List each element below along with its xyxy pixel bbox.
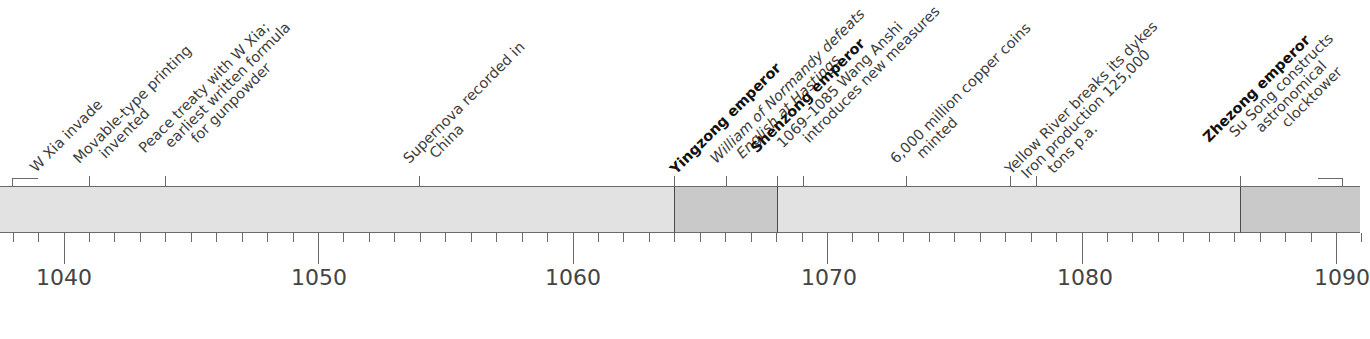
tick-1085 [1209,233,1210,242]
tick-1078 [1031,233,1032,242]
tick-1055 [445,233,446,242]
tick-1049 [293,233,294,242]
event-marker-1077 [1010,176,1011,186]
tick-1091 [1361,233,1362,242]
tick-1044 [165,233,166,242]
tick-1090 [1336,233,1337,264]
year-label-1090: 1090 [1314,265,1370,290]
event-marker-1064 [674,176,675,186]
tick-1072 [878,233,879,242]
tick-1064 [674,233,675,242]
tick-1084 [1183,233,1184,242]
tick-1059 [547,233,548,242]
tick-1075 [954,233,955,242]
event-bracket-w-xia [12,178,38,186]
tick-1051 [343,233,344,242]
reign-yingzong-band [674,186,778,233]
tick-1056 [471,233,472,242]
tick-1079 [1056,233,1057,242]
event-marker-1041 [89,176,90,186]
event-label-supernova: Supernova recorded in China [401,39,539,177]
event-bracket-su-song [1318,178,1343,186]
tick-1069 [802,233,803,242]
tick-1041 [89,233,90,242]
year-label-1040: 1040 [36,265,92,290]
tick-1043 [140,233,141,242]
event-marker-1068 [777,176,778,186]
tick-1048 [267,233,268,242]
tick-1046 [216,233,217,242]
tick-1047 [242,233,243,242]
tick-1083 [1158,233,1159,242]
tick-1062 [623,233,624,242]
tick-1074 [929,233,930,242]
tick-1081 [1107,233,1108,242]
event-marker-1044 [165,176,166,186]
year-label-1070: 1070 [801,265,857,290]
tick-1065 [700,233,701,242]
year-label-1050: 1050 [291,265,347,290]
reign-zhezong-band [1240,186,1360,233]
event-marker-1069 [803,176,804,186]
event-marker-1073 [906,176,907,186]
tick-1063 [649,233,650,242]
tick-1058 [522,233,523,242]
tick-1040 [64,233,65,264]
year-label-1060: 1060 [545,265,601,290]
tick-1073 [903,233,904,242]
year-label-1080: 1080 [1057,265,1113,290]
event-marker-1054 [419,176,420,186]
tick-1042 [114,233,115,242]
tick-1066 [725,233,726,242]
tick-1061 [598,233,599,242]
event-marker-1086 [1240,176,1241,186]
tick-1087 [1260,233,1261,242]
tick-1077 [1005,233,1006,242]
tick-1068 [776,233,777,242]
event-label-zhezong: Zhezong emperor Su Song constructs astro… [1201,20,1358,177]
tick-1053 [394,233,395,242]
tick-1039 [38,233,39,242]
tick-1086 [1234,233,1235,242]
tick-1080 [1082,233,1083,264]
tick-1060 [573,233,574,264]
tick-1082 [1132,233,1133,242]
tick-1070 [827,233,828,264]
tick-1071 [852,233,853,242]
tick-1067 [751,233,752,242]
tick-1038 [13,233,14,242]
tick-1050 [318,233,319,264]
tick-1089 [1311,233,1312,242]
event-marker-1066 [726,176,727,186]
tick-1076 [980,233,981,242]
tick-1088 [1285,233,1286,242]
tick-1052 [369,233,370,242]
tick-1057 [496,233,497,242]
tick-1054 [420,233,421,242]
tick-1045 [191,233,192,242]
event-label-iron-production: Iron production 125,000 tons p.a. [1019,47,1164,192]
